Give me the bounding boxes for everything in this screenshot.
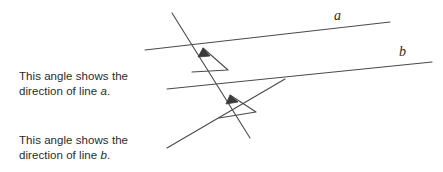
- caption-line-a: This angle shows the direction of line a…: [19, 69, 128, 99]
- label-line-b: b: [399, 44, 406, 59]
- transversal-lower-line: [167, 79, 285, 148]
- angle-marker-a: [192, 48, 228, 72]
- angle-wedge-a: [192, 48, 228, 72]
- transversal-upper-line: [172, 13, 250, 138]
- caption-line-a-row2: direction of line a.: [19, 84, 128, 99]
- caption-line-b-row2-prefix: direction of line: [19, 149, 100, 161]
- caption-line-b: This angle shows the direction of line b…: [19, 133, 128, 163]
- caption-line-a-row1: This angle shows the: [19, 69, 128, 84]
- geometry-figure: a b This angle shows the direction of li…: [0, 0, 443, 172]
- caption-line-b-row2: direction of line b.: [19, 148, 128, 163]
- caption-line-b-row2-suffix: .: [107, 149, 110, 161]
- caption-line-b-row1: This angle shows the: [19, 133, 128, 148]
- line-a: [145, 22, 390, 50]
- label-line-a: a: [334, 8, 341, 23]
- line-b: [167, 62, 432, 89]
- caption-line-a-row2-prefix: direction of line: [19, 85, 100, 97]
- caption-line-a-row2-suffix: .: [107, 85, 110, 97]
